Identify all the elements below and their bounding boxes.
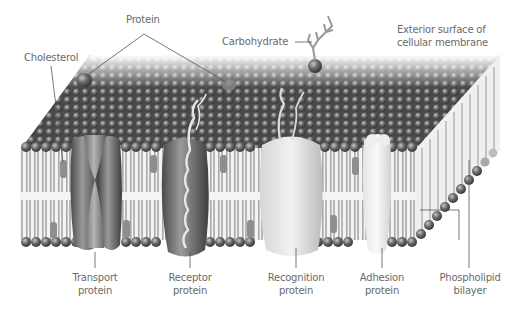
- label-phospholipid-line1: Phospholipid: [437, 272, 503, 285]
- surface-protein-left: [76, 73, 92, 87]
- label-receptor-protein: Receptor protein: [165, 272, 215, 297]
- label-protein: Protein: [126, 14, 160, 27]
- label-phospholipid-line2: bilayer: [437, 285, 503, 298]
- label-phospholipid-bilayer: Phospholipid bilayer: [437, 272, 503, 297]
- label-transport-protein: Transport protein: [70, 272, 120, 297]
- label-exterior-line1: Exterior surface of: [397, 24, 488, 37]
- label-exterior-line2: cellular membrane: [397, 37, 488, 50]
- label-carbohydrate: Carbohydrate: [222, 36, 288, 49]
- adhesion-protein: [363, 134, 392, 254]
- label-recognition-line1: Recognition: [266, 272, 326, 285]
- label-receptor-line1: Receptor: [165, 272, 215, 285]
- label-recognition-line2: protein: [266, 285, 326, 298]
- transport-protein: [70, 135, 122, 250]
- label-transport-line2: protein: [70, 285, 120, 298]
- label-adhesion-line1: Adhesion: [357, 272, 407, 285]
- label-exterior-surface: Exterior surface of cellular membrane: [397, 24, 488, 49]
- label-receptor-line2: protein: [165, 285, 215, 298]
- label-transport-line1: Transport: [70, 272, 120, 285]
- label-cholesterol: Cholesterol: [24, 52, 78, 65]
- label-adhesion-line2: protein: [357, 285, 407, 298]
- label-adhesion-protein: Adhesion protein: [357, 272, 407, 297]
- label-recognition-protein: Recognition protein: [266, 272, 326, 297]
